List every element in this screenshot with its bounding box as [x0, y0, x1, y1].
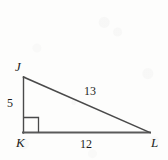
vertex-label-j: J: [15, 60, 21, 73]
vertex-label-l: L: [151, 136, 158, 149]
triangle-drawing: [0, 0, 168, 160]
right-angle-marker: [24, 118, 39, 133]
vertex-label-k: K: [16, 136, 25, 149]
side-length-jk: 5: [7, 97, 13, 109]
geometry-figure: J K L 5 12 13: [0, 0, 168, 160]
side-length-kl: 12: [80, 138, 92, 150]
side-length-jl: 13: [84, 85, 96, 97]
